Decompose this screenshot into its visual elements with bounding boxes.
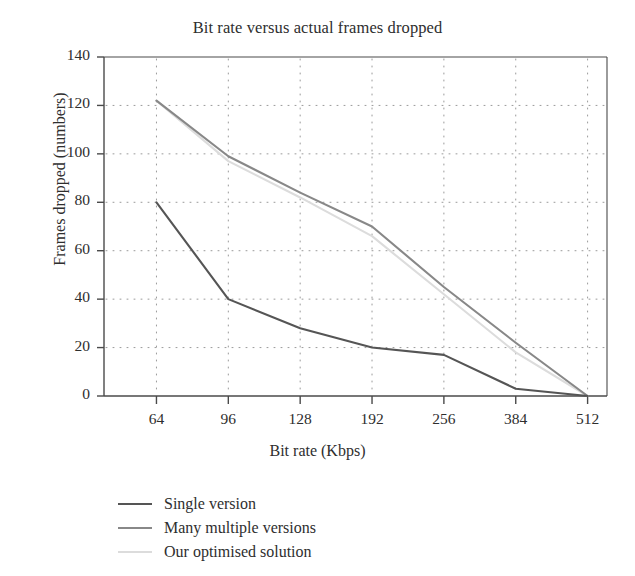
x-tick-label: 512	[558, 410, 618, 428]
plot-area	[0, 0, 635, 576]
y-tick-label: 100	[44, 143, 90, 161]
legend-line-swatch	[118, 503, 152, 505]
x-tick-label: 192	[342, 410, 402, 428]
legend-item[interactable]: Our optimised solution	[118, 540, 538, 564]
chart-legend: Single versionMany multiple versionsOur …	[118, 492, 538, 564]
x-tick-label: 96	[198, 410, 258, 428]
x-tick-label: 384	[486, 410, 546, 428]
legend-item[interactable]: Single version	[118, 492, 538, 516]
legend-item[interactable]: Many multiple versions	[118, 516, 538, 540]
x-tick-label: 128	[270, 410, 330, 428]
y-tick-label: 140	[44, 46, 90, 64]
chart-figure: Bit rate versus actual frames dropped Fr…	[0, 0, 635, 576]
y-tick-label: 60	[44, 240, 90, 258]
y-tick-label: 0	[44, 385, 90, 403]
legend-line-swatch	[118, 551, 152, 553]
y-tick-label: 40	[44, 288, 90, 306]
y-tick-label: 80	[44, 191, 90, 209]
x-tick-label: 64	[126, 410, 186, 428]
y-tick-label: 20	[44, 337, 90, 355]
x-tick-label: 256	[414, 410, 474, 428]
legend-label: Our optimised solution	[164, 543, 312, 561]
legend-label: Many multiple versions	[164, 519, 316, 537]
legend-label: Single version	[164, 495, 256, 513]
legend-line-swatch	[118, 527, 152, 529]
y-tick-label: 120	[44, 94, 90, 112]
